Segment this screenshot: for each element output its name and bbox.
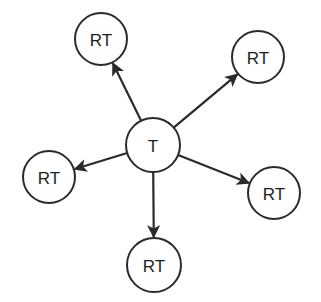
- node-label: RT: [143, 257, 165, 276]
- node-label: RT: [263, 185, 285, 204]
- node-label: RT: [90, 31, 112, 50]
- node-rt-top-right: RT: [232, 31, 284, 83]
- node-rt-left: RT: [23, 151, 75, 203]
- nodes: TRTRTRTRTRT: [23, 13, 300, 292]
- node-rt-bottom: RT: [127, 238, 181, 292]
- star-diagram: TRTRTRTRTRT: [0, 0, 321, 302]
- node-label: RT: [38, 169, 60, 188]
- edge-arrow-rt-top-right: [174, 74, 238, 127]
- edge-arrow-rt-right: [178, 155, 249, 183]
- node-label: T: [148, 137, 158, 156]
- edge-arrow-rt-top-left: [113, 63, 141, 121]
- edge-arrow-rt-left: [75, 153, 127, 169]
- edge-arrow-rt-bottom: [153, 172, 154, 237]
- node-t: T: [126, 118, 180, 172]
- node-rt-right: RT: [248, 167, 300, 219]
- node-rt-top-left: RT: [75, 13, 127, 65]
- node-label: RT: [247, 49, 269, 68]
